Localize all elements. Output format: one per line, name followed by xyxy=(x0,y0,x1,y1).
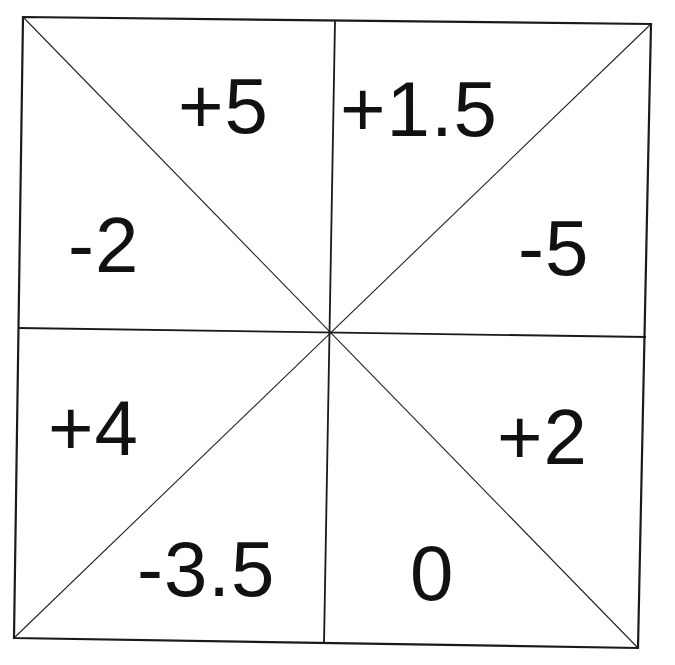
region-label-top-right-lower: -5 xyxy=(518,204,589,292)
region-label-bottom-left-upper: +4 xyxy=(48,384,139,472)
region-label-top-right-upper: +1.5 xyxy=(340,65,498,153)
region-label-bottom-right-lower: 0 xyxy=(410,529,454,617)
region-labels: +5 +1.5 -2 -5 +4 +2 -3.5 0 xyxy=(48,62,589,617)
horizontal-midline xyxy=(18,328,646,337)
number-square-diagram: +5 +1.5 -2 -5 +4 +2 -3.5 0 xyxy=(0,0,675,665)
region-label-top-left-upper: +5 xyxy=(178,62,269,150)
region-label-top-left-lower: -2 xyxy=(68,201,139,289)
region-label-bottom-right-upper: +2 xyxy=(497,393,588,481)
region-label-bottom-left-lower: -3.5 xyxy=(137,525,275,613)
